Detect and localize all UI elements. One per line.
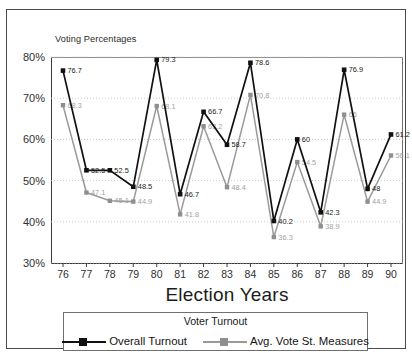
data-point-marker bbox=[318, 210, 323, 215]
data-point-marker bbox=[342, 112, 346, 116]
x-tick-label: 87 bbox=[315, 268, 327, 280]
data-point-marker bbox=[84, 168, 89, 173]
x-tick-label: 83 bbox=[221, 268, 233, 280]
legend-item-overall-turnout[interactable]: Overall Turnout bbox=[62, 335, 187, 347]
data-point-label: 36.3 bbox=[278, 233, 292, 242]
data-point-label: 60 bbox=[302, 135, 310, 144]
data-point-label: 52.5 bbox=[91, 166, 105, 175]
data-point-label: 61.2 bbox=[396, 130, 410, 139]
data-point-label: 52.5 bbox=[114, 166, 128, 175]
y-axis: 30%40%50%60%70%80% bbox=[7, 34, 51, 266]
x-tick-label: 78 bbox=[104, 268, 116, 280]
x-tick-label: 80 bbox=[151, 268, 163, 280]
y-tick-label: 50% bbox=[23, 175, 45, 187]
data-point-marker bbox=[365, 199, 369, 203]
legend-label-avg-vote-st-measures: Avg. Vote St. Measures bbox=[250, 335, 369, 347]
x-tick-label: 76 bbox=[57, 268, 69, 280]
data-point-marker bbox=[84, 190, 88, 194]
data-point-label: 38.9 bbox=[325, 222, 339, 231]
x-tick-label: 82 bbox=[198, 268, 210, 280]
y-tick-label: 40% bbox=[23, 216, 45, 228]
plot-area: Voting Percentages 68.347.145.144.968.14… bbox=[51, 34, 403, 266]
x-axis-title: Election Years bbox=[51, 284, 403, 306]
data-point-marker bbox=[319, 224, 323, 228]
data-point-marker bbox=[389, 153, 393, 157]
data-point-label: 76.9 bbox=[349, 65, 363, 74]
data-point-marker bbox=[131, 199, 135, 203]
data-point-marker bbox=[365, 187, 370, 192]
data-point-marker bbox=[272, 219, 277, 224]
x-axis: 767778798081828384858687888990 bbox=[51, 268, 403, 284]
x-tick-label: 79 bbox=[127, 268, 139, 280]
legend-swatch-dark-icon bbox=[62, 336, 106, 347]
data-point-marker bbox=[201, 110, 206, 115]
data-point-marker bbox=[61, 68, 66, 73]
series-line-overall-turnout bbox=[63, 60, 391, 221]
data-point-label: 66.7 bbox=[208, 107, 222, 116]
legend-entries: Overall Turnout Avg. Vote St. Measures bbox=[64, 332, 367, 350]
x-tick-label: 84 bbox=[245, 268, 257, 280]
data-point-label: 76.7 bbox=[68, 66, 82, 75]
x-tick-label: 88 bbox=[338, 268, 350, 280]
data-point-label: 48 bbox=[372, 184, 380, 193]
data-point-label: 44.9 bbox=[372, 197, 386, 206]
data-point-label: 40.2 bbox=[278, 217, 292, 226]
data-point-marker bbox=[178, 192, 183, 197]
data-point-label: 46.7 bbox=[185, 190, 199, 199]
data-point-marker bbox=[61, 103, 65, 107]
data-point-marker bbox=[342, 67, 347, 72]
x-tick-label: 89 bbox=[362, 268, 374, 280]
y-tick-label: 80% bbox=[23, 51, 45, 63]
data-point-marker bbox=[295, 137, 300, 142]
data-point-label: 42.3 bbox=[325, 208, 339, 217]
x-tick-label: 90 bbox=[385, 268, 397, 280]
data-point-marker bbox=[295, 160, 299, 164]
data-point-marker bbox=[248, 60, 253, 65]
figure-frame: 30%40%50%60%70%80% Voting Percentages 68… bbox=[6, 9, 406, 349]
legend-swatch-gray-icon bbox=[203, 336, 247, 347]
data-point-marker bbox=[201, 124, 205, 128]
data-point-label: 48.5 bbox=[138, 182, 152, 191]
data-point-label: 41.8 bbox=[185, 210, 199, 219]
data-point-marker bbox=[131, 184, 136, 189]
data-point-label: 48.4 bbox=[232, 183, 246, 192]
chart-figure: 30%40%50%60%70%80% Voting Percentages 68… bbox=[0, 0, 412, 353]
data-point-marker bbox=[248, 93, 252, 97]
data-point-label: 56.1 bbox=[396, 151, 410, 160]
data-point-label: 70.8 bbox=[255, 91, 269, 100]
data-point-marker bbox=[155, 104, 159, 108]
data-point-label: 44.9 bbox=[138, 197, 152, 206]
x-tick-label: 85 bbox=[268, 268, 280, 280]
legend-item-avg-vote-st-measures[interactable]: Avg. Vote St. Measures bbox=[203, 335, 369, 347]
data-point-marker bbox=[178, 212, 182, 216]
y-tick-label: 60% bbox=[23, 133, 45, 145]
data-point-label: 58.7 bbox=[232, 140, 246, 149]
data-point-marker bbox=[272, 235, 276, 239]
legend-label-overall-turnout: Overall Turnout bbox=[109, 335, 187, 347]
data-point-label: 78.6 bbox=[255, 58, 269, 67]
data-point-marker bbox=[108, 199, 112, 203]
legend: Voter Turnout Overall Turnout Avg. Vote … bbox=[63, 312, 368, 351]
data-point-marker bbox=[389, 132, 394, 137]
data-point-marker bbox=[154, 58, 159, 63]
data-point-marker bbox=[108, 168, 113, 173]
legend-title: Voter Turnout bbox=[64, 315, 367, 327]
series-line-avg-vote-st-measures bbox=[63, 95, 391, 237]
y-tick-label: 70% bbox=[23, 92, 45, 104]
x-tick-label: 81 bbox=[174, 268, 186, 280]
data-point-label: 79.3 bbox=[161, 55, 175, 64]
data-point-marker bbox=[225, 142, 230, 147]
x-tick-label: 86 bbox=[291, 268, 303, 280]
chart-canvas: 68.347.145.144.968.141.863.248.470.836.3… bbox=[51, 34, 403, 266]
data-point-label: 47.1 bbox=[91, 188, 105, 197]
data-point-label: 45.1 bbox=[114, 196, 128, 205]
x-tick-label: 77 bbox=[81, 268, 93, 280]
data-point-marker bbox=[225, 185, 229, 189]
y-tick-label: 30% bbox=[23, 257, 45, 269]
